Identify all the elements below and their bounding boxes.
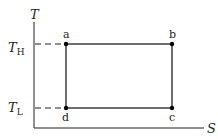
point-a [64, 42, 68, 46]
point-d [64, 106, 68, 110]
point-b [170, 42, 174, 46]
y-axis-label: T [30, 7, 40, 22]
point-b-label: b [169, 28, 176, 41]
x-axis-label: S [207, 121, 216, 136]
th-subscript: H [17, 47, 25, 57]
tl-label: TL [8, 100, 23, 117]
point-d-label: d [62, 111, 69, 124]
point-a-label: a [63, 28, 70, 41]
point-c [170, 106, 174, 110]
ts-diagram: T S TH TL a b c d [0, 0, 218, 140]
th-label: TH [8, 40, 25, 57]
point-c-label: c [169, 111, 175, 124]
tl-subscript: L [17, 107, 23, 117]
carnot-cycle-rectangle [66, 44, 172, 108]
